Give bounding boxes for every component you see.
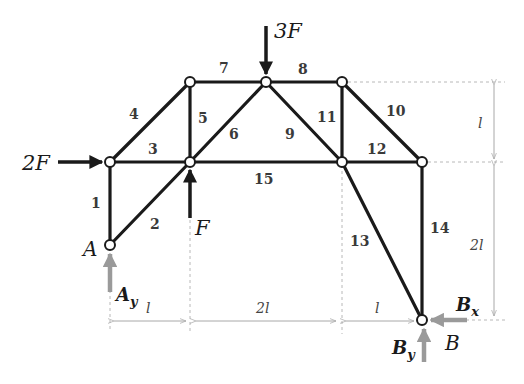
members: [110, 82, 422, 320]
reactions: Ay By Bx: [110, 254, 479, 362]
node-top-left: [185, 77, 195, 87]
member-label-3: 3: [148, 141, 158, 157]
member-label-11: 11: [317, 109, 336, 125]
node-top-right: [337, 77, 347, 87]
member-label-6: 6: [229, 126, 239, 142]
support-label-b: B: [444, 331, 460, 355]
member-label-5: 5: [198, 110, 208, 126]
member-label-14: 14: [430, 220, 450, 236]
load-label-3f: 3F: [274, 19, 303, 43]
reaction-label-ay: Ay: [114, 284, 139, 309]
support-label-a: A: [81, 237, 97, 261]
member-label-4: 4: [129, 106, 139, 122]
member-label-1: 1: [91, 195, 101, 211]
member-label-8: 8: [298, 61, 308, 77]
node-center-left-mid: [185, 157, 195, 167]
node-a: [105, 240, 115, 250]
dim-label-v2: 2l: [469, 237, 483, 253]
member-label-10: 10: [386, 103, 406, 119]
dim-label-h2: 2l: [255, 300, 269, 316]
guide-lines: [110, 82, 505, 334]
node-top-center: [261, 77, 271, 87]
truss-diagram: l 2l l l 2l 2F 3F F Ay: [0, 0, 524, 384]
member-label-2: 2: [150, 216, 160, 232]
member-label-9: 9: [285, 126, 295, 142]
dim-label-h1: l: [146, 300, 150, 316]
member-label-7: 7: [219, 60, 229, 76]
reaction-label-bx: Bx: [455, 294, 479, 319]
member-label-12: 12: [367, 141, 386, 157]
load-label-f: F: [194, 216, 211, 240]
dim-label-v1: l: [478, 115, 482, 131]
node-center-right-mid: [337, 157, 347, 167]
node-left-mid: [105, 157, 115, 167]
member-label-13: 13: [350, 233, 369, 249]
node-right-mid: [417, 157, 427, 167]
member-2: [110, 162, 190, 245]
loads: 2F 3F F: [21, 19, 303, 240]
load-label-2f: 2F: [21, 151, 51, 175]
node-b: [417, 315, 427, 325]
reaction-label-by: By: [391, 337, 416, 362]
member-label-15: 15: [254, 171, 273, 187]
dim-label-h3: l: [375, 300, 379, 316]
